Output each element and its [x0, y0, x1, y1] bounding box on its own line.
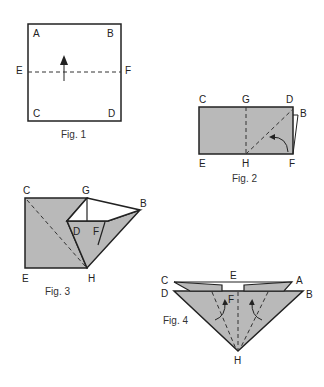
label-e: E: [16, 65, 23, 76]
label-g: G: [82, 185, 90, 196]
left-flap: [174, 282, 222, 291]
label-f: F: [228, 294, 234, 305]
figure-4: C E A D F B H Fig. 4: [161, 270, 313, 366]
label-f: F: [125, 65, 131, 76]
label-f: F: [289, 158, 295, 169]
label-a: A: [296, 275, 303, 286]
label-h: H: [242, 158, 249, 169]
right-flap: [244, 282, 292, 291]
caption-fig-4: Fig. 4: [163, 315, 188, 326]
label-c: C: [161, 275, 168, 286]
label-h: H: [234, 355, 241, 366]
figure-1: A B C D E F Fig. 1: [16, 24, 131, 140]
label-f: F: [93, 226, 99, 237]
label-b: B: [107, 28, 114, 39]
label-e: E: [199, 158, 206, 169]
caption-fig-3: Fig. 3: [45, 286, 70, 297]
label-g: G: [242, 94, 250, 105]
label-c: C: [23, 185, 30, 196]
figure-2: C G D B E H F Fig. 2: [199, 94, 307, 184]
label-d: D: [161, 288, 168, 299]
label-e: E: [22, 273, 29, 284]
label-d: D: [286, 94, 293, 105]
label-d: D: [108, 108, 115, 119]
label-d: D: [73, 226, 80, 237]
label-b: B: [300, 108, 307, 119]
caption-fig-1: Fig. 1: [61, 129, 86, 140]
label-e: E: [230, 270, 237, 281]
label-c: C: [33, 108, 40, 119]
label-b: B: [140, 198, 147, 209]
caption-fig-2: Fig. 2: [232, 173, 257, 184]
origami-diagram: A B C D E F Fig. 1 C G D B E H F Fig. 2 …: [0, 0, 324, 387]
label-b: B: [306, 289, 313, 300]
figure-3: C G B D F E H Fig. 3: [22, 185, 147, 297]
label-h: H: [88, 273, 95, 284]
label-a: A: [33, 28, 40, 39]
label-c: C: [199, 94, 206, 105]
